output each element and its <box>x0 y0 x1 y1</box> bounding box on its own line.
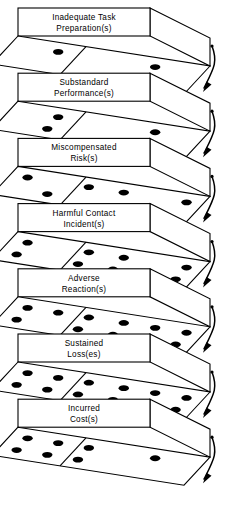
level-label-line1: Miscompensated <box>51 143 117 152</box>
hazard-dot <box>119 255 129 261</box>
levels-group: Inadequate TaskPreparation(s)Substandard… <box>0 8 210 485</box>
level-label-line1: Incurred <box>68 404 100 413</box>
hazard-dot <box>73 261 83 267</box>
level-label-line2: Preparation(s) <box>56 24 111 33</box>
hazard-dot <box>181 265 191 271</box>
level-label-line2: Reaction(s) <box>62 285 107 294</box>
hazard-dot <box>84 184 94 190</box>
hazard-dot <box>84 249 94 255</box>
hazard-dot <box>11 252 21 258</box>
hazard-dot <box>53 114 63 120</box>
hazard-dot <box>53 440 63 446</box>
hazard-dot <box>42 191 52 197</box>
level-label-line2: Performance(s) <box>54 89 114 98</box>
hazard-dot <box>42 387 52 393</box>
hazard-dot <box>84 380 94 386</box>
hazard-dot <box>42 126 52 132</box>
hazard-dot <box>11 317 21 323</box>
level-label-line2: Loss(es) <box>67 350 100 359</box>
hazard-dot <box>22 370 32 376</box>
hazard-dot <box>84 445 94 451</box>
hazard-dot <box>42 452 52 458</box>
hazard-dot <box>22 435 32 441</box>
hazard-dot <box>119 190 129 196</box>
hazard-dot <box>53 375 63 381</box>
hazard-dot <box>181 199 191 205</box>
hazard-dot <box>181 395 191 401</box>
hazard-dot <box>73 457 83 463</box>
hazard-dot <box>53 310 63 316</box>
curved-down-arrow-tail <box>210 305 213 308</box>
hazard-dot <box>181 330 191 336</box>
diagram-canvas: Inadequate TaskPreparation(s)Substandard… <box>0 0 238 510</box>
curved-down-arrow-tail <box>210 44 213 47</box>
hazard-dot <box>22 305 32 311</box>
level-label-line1: Harmful Contact <box>53 209 116 218</box>
level-label-line2: Cost(s) <box>70 415 98 424</box>
level-label-line1: Sustained <box>65 339 104 348</box>
hazard-dot <box>150 455 160 461</box>
level-label-line2: Incident(s) <box>64 220 105 229</box>
hazard-dot <box>84 315 94 321</box>
hazard-dot <box>73 326 83 332</box>
hazard-dot <box>53 49 63 55</box>
hazard-dot <box>150 64 160 70</box>
hazard-dot <box>150 390 160 396</box>
curved-down-arrow-tail <box>210 436 213 439</box>
hazard-dot <box>22 175 32 181</box>
curved-down-arrow-tail <box>210 240 213 243</box>
hazard-dot <box>11 447 21 453</box>
hazard-dot <box>73 392 83 398</box>
hazard-dot <box>150 325 160 331</box>
hazard-dot <box>22 240 32 246</box>
level-label-line1: Adverse <box>68 274 100 283</box>
level-label-line2: Risk(s) <box>70 154 97 163</box>
cascade-diagram: Inadequate TaskPreparation(s)Substandard… <box>0 0 238 510</box>
level-label-line1: Substandard <box>59 78 108 87</box>
curved-down-arrow-tail <box>210 175 213 178</box>
hazard-dot <box>150 129 160 135</box>
level-label-line1: Inadequate Task <box>52 13 116 22</box>
curved-down-arrow-tail <box>210 370 213 373</box>
hazard-dot <box>119 385 129 391</box>
hazard-dot <box>11 382 21 388</box>
curved-down-arrow-tail <box>210 110 213 113</box>
hazard-dot <box>119 320 129 326</box>
